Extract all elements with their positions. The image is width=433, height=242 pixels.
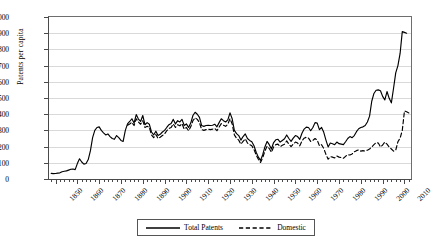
x-axis-minor-tick [108,180,109,182]
x-axis-major-tick [317,180,318,184]
legend-item-domestic: Domestic [239,223,306,232]
plot-area [48,16,412,180]
x-axis-minor-tick [69,180,70,182]
y-axis-tick-label: 600 [0,77,9,86]
x-axis-minor-tick [125,180,126,182]
x-axis-major-tick [77,180,78,184]
x-axis-major-tick [121,180,122,184]
x-axis-major-tick [230,180,231,184]
x-axis-minor-tick [82,180,83,182]
x-axis-major-tick [165,180,166,184]
x-axis-tick-label: 1880 [132,186,149,203]
x-axis-tick-label: 1980 [350,186,367,203]
x-axis-minor-tick [178,180,179,182]
x-axis-minor-tick [356,180,357,182]
x-axis-major-tick [295,180,296,184]
y-axis-tick-label: 700 [0,61,9,70]
x-axis-minor-tick [117,180,118,182]
y-axis-tick-label: 800 [0,45,9,54]
x-axis-minor-tick [73,180,74,182]
legend-swatch-solid [146,225,180,231]
x-axis-minor-tick [265,180,266,182]
x-axis-minor-tick [51,180,52,182]
x-axis-major-tick [208,180,209,184]
x-axis-minor-tick [112,180,113,182]
x-axis-minor-tick [282,180,283,182]
x-axis-minor-tick [173,180,174,182]
x-axis-minor-tick [278,180,279,182]
x-axis-tick-label: 1930 [241,186,258,203]
y-axis-tick-label: 200 [0,142,9,151]
x-axis-minor-tick [243,180,244,182]
legend-label-domestic: Domestic [277,223,306,232]
x-axis-minor-tick [90,180,91,182]
x-axis-major-tick [99,180,100,184]
x-axis-minor-tick [204,180,205,182]
x-axis-major-tick [56,180,57,184]
x-axis-minor-tick [160,180,161,182]
series-line-total-patents [51,32,406,174]
x-axis-minor-tick [322,180,323,182]
x-axis-minor-tick [256,180,257,182]
x-axis-minor-tick [239,180,240,182]
x-axis-major-tick [361,180,362,184]
x-axis-minor-tick [365,180,366,182]
x-axis-tick-label: 1890 [154,186,171,203]
x-axis-minor-tick [330,180,331,182]
x-axis-minor-tick [352,180,353,182]
x-axis-minor-tick [304,180,305,182]
x-axis-minor-tick [387,180,388,182]
x-axis-minor-tick [104,180,105,182]
x-axis-major-tick [339,180,340,184]
x-axis-minor-tick [221,180,222,182]
series-line-domestic [128,111,409,163]
x-axis-minor-tick [169,180,170,182]
x-axis-major-tick [252,180,253,184]
y-axis-tick-label: 300 [0,126,9,135]
x-axis-minor-tick [261,180,262,182]
x-axis-tick-label: 1960 [307,186,324,203]
x-axis-minor-tick [234,180,235,182]
x-axis-minor-tick [374,180,375,182]
x-axis-minor-tick [391,180,392,182]
x-axis-tick-label: 1940 [263,186,280,203]
x-axis-minor-tick [199,180,200,182]
x-axis-tick-label: 2000 [394,186,411,203]
legend-swatch-dashed [239,225,273,231]
x-axis-minor-tick [269,180,270,182]
x-axis-tick-label: 1850 [67,186,84,203]
y-axis-tick-label: 500 [0,94,9,103]
legend-item-total-patents: Total Patents [146,223,223,232]
x-axis-tick-label: 1910 [198,186,215,203]
x-axis-minor-tick [287,180,288,182]
x-axis-tick-label: 1860 [89,186,106,203]
x-axis-minor-tick [182,180,183,182]
x-axis-tick-label: 1870 [111,186,128,203]
y-axis-tick-label: 1000 [0,13,9,22]
x-axis-major-tick [274,180,275,184]
x-axis-major-tick [404,180,405,184]
x-axis-minor-tick [335,180,336,182]
x-axis-minor-tick [138,180,139,182]
x-axis-tick-label: 1970 [329,186,346,203]
x-axis-minor-tick [134,180,135,182]
x-axis-minor-tick [409,180,410,182]
x-axis-minor-tick [217,180,218,182]
x-axis-minor-tick [313,180,314,182]
x-axis-minor-tick [60,180,61,182]
x-axis-minor-tick [86,180,87,182]
x-axis-major-tick [186,180,187,184]
x-axis-minor-tick [191,180,192,182]
y-axis-tick-label: 900 [0,29,9,38]
x-axis-minor-tick [300,180,301,182]
y-axis-tick-label: 100 [0,158,9,167]
y-axis-title: Patents per capita [16,0,25,117]
x-axis-minor-tick [309,180,310,182]
x-axis-major-tick [383,180,384,184]
x-axis-minor-tick [156,180,157,182]
chart-legend: Total Patents Domestic [137,219,315,236]
x-axis-minor-tick [343,180,344,182]
x-axis-minor-tick [64,180,65,182]
x-axis-minor-tick [396,180,397,182]
x-axis-minor-tick [147,180,148,182]
